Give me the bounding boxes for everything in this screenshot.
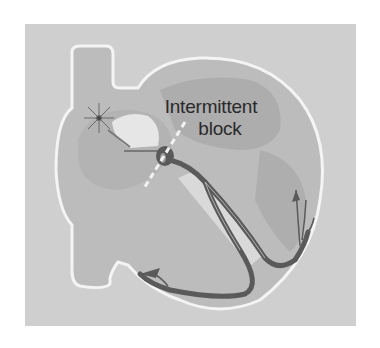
label-intermittent: Intermittent bbox=[156, 96, 266, 118]
sinoatrial-node-icon bbox=[84, 103, 114, 133]
heart-diagram bbox=[0, 0, 380, 348]
label-block: block bbox=[190, 118, 250, 140]
